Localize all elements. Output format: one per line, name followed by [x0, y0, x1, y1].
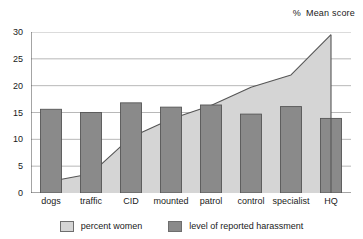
y-tick-10: 10: [13, 135, 23, 144]
x-tick-specialist: specialist: [272, 196, 309, 207]
x-axis-tick-labels: dogstrafficCIDmountedpatrolcontrolspecia…: [31, 196, 351, 210]
bar-CID: [121, 103, 142, 193]
x-tick-HQ: HQ: [324, 196, 338, 207]
x-tick-dogs: dogs: [41, 196, 61, 207]
x-tick-CID: CID: [123, 196, 139, 207]
chart-container: %Mean score 051015202530 dogstrafficCIDm…: [0, 0, 363, 239]
plot-area: [31, 32, 351, 193]
y-tick-5: 5: [18, 162, 23, 171]
legend-label: percent women: [81, 221, 143, 231]
x-tick-patrol: patrol: [200, 196, 223, 207]
legend-swatch-icon: [168, 221, 182, 232]
bar-patrol: [201, 105, 222, 193]
chart-legend: percent womenlevel of reported harassmen…: [0, 216, 363, 236]
plot-svg: [31, 32, 351, 193]
legend-percent-women[interactable]: percent women: [60, 221, 143, 232]
y-tick-0: 0: [18, 189, 23, 198]
bar-traffic: [81, 113, 102, 194]
bar-specialist: [281, 107, 302, 193]
legend-label: level of reported harassment: [189, 221, 303, 231]
page-title: Mean score: [306, 8, 355, 18]
x-tick-mounted: mounted: [153, 196, 188, 207]
y-tick-25: 25: [13, 54, 23, 63]
y-axis-tick-labels: 051015202530: [0, 0, 31, 195]
bar-mounted: [161, 107, 182, 193]
y-tick-30: 30: [13, 28, 23, 37]
percent-symbol: %: [293, 8, 301, 18]
legend-swatch-icon: [60, 221, 74, 232]
x-tick-control: control: [237, 196, 264, 207]
bar-dogs: [41, 109, 62, 193]
chart-header-label: %Mean score: [293, 8, 355, 18]
x-tick-traffic: traffic: [80, 196, 102, 207]
bar-control: [241, 114, 262, 193]
y-tick-20: 20: [13, 81, 23, 90]
y-tick-15: 15: [13, 108, 23, 117]
legend-harassment[interactable]: level of reported harassment: [168, 221, 303, 232]
